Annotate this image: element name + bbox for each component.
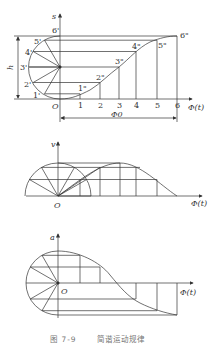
curve-point-5: 5" [158, 41, 167, 50]
phi-axis-label: Φ(t) [191, 199, 207, 208]
phi-axis-label: Φ(t) [188, 103, 204, 112]
tick-2: 2 [98, 101, 103, 110]
a-axis-label: a [50, 233, 55, 242]
circle-point-1: 1' [33, 91, 40, 100]
curve-point-2: 2" [96, 73, 105, 82]
tick-1: 1 [78, 101, 83, 110]
circle-point-6: 6' [52, 26, 59, 35]
origin-label: O [52, 102, 59, 111]
harmonic-motion-figure: s O Φ(t) h Φ0 1 2 3 4 5 6 1' 2' 3' 4' 5'… [0, 0, 224, 348]
phi-axis-label: Φ(t) [180, 288, 196, 297]
s-axis-label: s [52, 12, 56, 21]
phi0-label: Φ0 [111, 110, 123, 119]
circle-point-5: 5' [34, 37, 41, 46]
curve-point-6: 6" [180, 31, 189, 40]
velocity-labels: v O Φ(t) [51, 140, 207, 210]
origin-label: O [61, 287, 68, 296]
acceleration-plot [26, 234, 193, 318]
tick-6: 6 [175, 101, 180, 110]
curve-point-1: 1" [78, 84, 87, 93]
circle-point-3: 3' [20, 63, 27, 72]
circle-point-4: 4' [25, 48, 32, 57]
figure-number: 图 7-9 [50, 335, 77, 344]
circle-point-2: 2' [24, 80, 31, 89]
origin-label: O [54, 201, 61, 210]
figure-title: 简谐运动规律 [97, 334, 145, 344]
velocity-plot [25, 142, 202, 196]
tick-5: 5 [155, 101, 160, 110]
curve-point-3: 3" [115, 57, 124, 66]
displacement-labels: s O Φ(t) h Φ0 1 2 3 4 5 6 1' 2' 3' 4' 5'… [6, 12, 204, 119]
h-label: h [6, 65, 15, 70]
tick-3: 3 [117, 101, 122, 110]
acceleration-labels: a O Φ(t) [50, 233, 196, 297]
v-axis-label: v [51, 140, 56, 149]
tick-4: 4 [134, 101, 139, 110]
curve-point-4: 4" [132, 42, 141, 51]
